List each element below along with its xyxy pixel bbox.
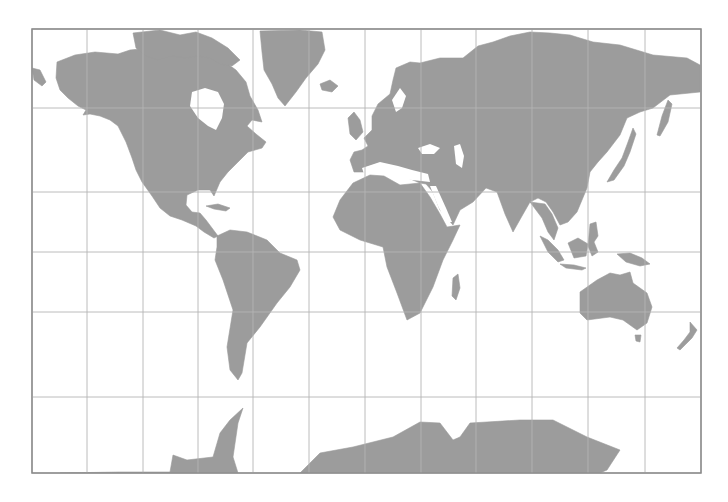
world-map: World Map [0,0,728,502]
tasmania-landmass [635,335,641,342]
map-canvas [0,0,728,502]
